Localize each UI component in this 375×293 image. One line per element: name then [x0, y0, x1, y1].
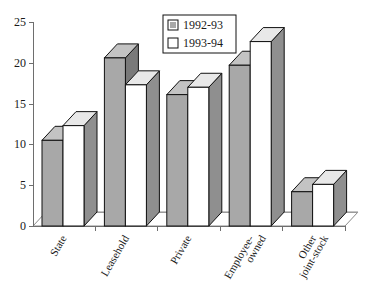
bar-front-face — [292, 192, 313, 226]
x-category-label-2-line-0: Private — [168, 233, 194, 266]
y-tick-label-5: 5 — [20, 178, 26, 192]
y-tick-label-25: 25 — [14, 15, 26, 29]
x-category-label-1-line-0: Leasehold — [98, 233, 131, 279]
legend[interactable]: 1992-93 1993-94 — [163, 15, 236, 53]
bar-front-face — [63, 126, 84, 226]
legend-swatch-icon — [168, 38, 178, 48]
bar-front-face — [250, 42, 271, 226]
bar-front-face — [125, 85, 146, 226]
bar-front-face — [229, 65, 250, 226]
y-axis-ticks — [29, 22, 33, 226]
bar-side-face — [146, 71, 159, 226]
chart-canvas: 0 5 10 15 20 25 StateLeaseholdPrivateEmp… — [0, 0, 375, 293]
bar-1993-94-1 — [125, 71, 159, 226]
bar-front-face — [188, 87, 209, 226]
legend-swatch-inner-icon — [170, 22, 176, 28]
x-category-label-0-line-0: State — [47, 233, 68, 258]
bar-chart: 0 5 10 15 20 25 StateLeaseholdPrivateEmp… — [0, 0, 375, 293]
bar-front-face — [104, 58, 125, 226]
bar-1993-94-4 — [313, 170, 347, 226]
y-tick-label-15: 15 — [14, 97, 26, 111]
y-axis: 0 5 10 15 20 25 — [14, 15, 33, 233]
bar-1993-94-0 — [63, 112, 97, 226]
x-axis-ticks — [95, 226, 345, 231]
bar-side-face — [84, 112, 97, 226]
y-tick-label-0: 0 — [20, 219, 26, 233]
bar-front-face — [42, 140, 63, 226]
category-labels: StateLeaseholdPrivateEmployee-ownedOther… — [47, 233, 330, 281]
bar-front-face — [313, 184, 334, 226]
bar-side-face — [271, 28, 284, 226]
bar-side-face — [209, 73, 222, 226]
y-tick-label-10: 10 — [14, 137, 26, 151]
legend-item-1993-94[interactable]: 1993-94 — [168, 36, 223, 50]
bar-1993-94-3 — [250, 28, 284, 226]
bar-1993-94-2 — [188, 73, 222, 226]
y-axis-tick-labels: 0 5 10 15 20 25 — [14, 15, 26, 233]
x-axis — [33, 226, 345, 231]
bars-group — [42, 28, 347, 226]
legend-item-1992-93[interactable]: 1992-93 — [168, 18, 223, 32]
legend-label-1: 1993-94 — [183, 36, 223, 50]
y-tick-label-20: 20 — [14, 56, 26, 70]
bar-front-face — [167, 95, 188, 226]
legend-label-0: 1992-93 — [183, 18, 223, 32]
